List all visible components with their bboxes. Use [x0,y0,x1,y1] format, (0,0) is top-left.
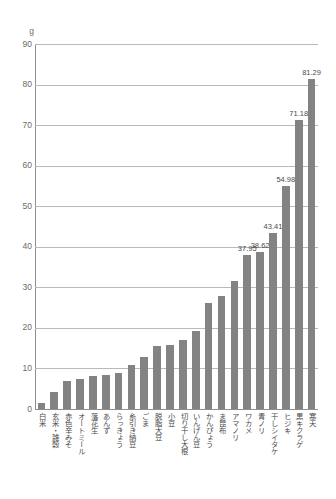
bar[interactable] [256,252,264,409]
x-tick-label: 切り干し大根 [179,412,187,454]
x-tick-label: 玄米・雑穀 [50,412,58,447]
bar[interactable] [308,79,316,409]
bar-slot: 54.98 [279,44,292,409]
y-tick-label: 40 [8,242,32,251]
y-tick-label: 80 [8,80,32,89]
bar[interactable] [128,365,136,409]
bar-slot [74,44,87,409]
bar[interactable] [115,373,123,410]
bar-slot [112,44,125,409]
bar-slot: 43.41 [267,44,280,409]
gridline-0 [35,409,318,410]
bar-value-label: 81.29 [302,69,321,77]
y-tick-label: 20 [8,323,32,332]
x-tick-label: ヒジキ [282,412,290,433]
bar-slot [48,44,61,409]
bar-slot [202,44,215,409]
bar-slot [86,44,99,409]
x-tick-label: らっきょう [115,412,123,447]
x-tick-label: ごま [140,412,148,426]
x-tick-label: 落花生 [89,412,97,433]
bar[interactable] [102,375,110,409]
bar[interactable] [269,233,277,409]
x-tick-label: 寒天 [308,412,316,426]
bar[interactable] [205,303,213,409]
y-axis-unit-label: g [12,27,34,36]
bar-slot: 37.95 [241,44,254,409]
bar-slot: 71.18 [292,44,305,409]
bar-slot [228,44,241,409]
x-tick-label: ま昆布 [218,412,226,433]
bar-slot [189,44,202,409]
bar[interactable] [218,296,226,409]
bars-layer: 37.9538.6243.4154.9871.1881.29 [35,44,318,409]
bar-slot [125,44,138,409]
bar[interactable] [89,376,97,409]
bar[interactable] [192,331,200,409]
x-tick-label: いんげん豆 [192,412,200,447]
y-tick-label: 90 [8,40,32,49]
bar[interactable] [76,379,84,409]
bar-slot: 81.29 [305,44,318,409]
x-tick-label: あんず [102,412,110,433]
x-tick-label: 青ノリ [256,412,264,433]
x-tick-label: 黒キクラゲ [295,412,303,447]
bar[interactable] [166,345,174,409]
x-tick-label: 白米 [37,412,45,426]
x-tick-label: 糸引き納豆 [127,412,135,447]
x-tick-label: 小豆 [166,412,174,426]
x-tick-label: 干しシイタケ [269,412,277,454]
bar[interactable] [282,186,290,409]
y-tick-label: 50 [8,202,32,211]
bar-slot [177,44,190,409]
bar-slot [164,44,177,409]
y-tick-label: 0 [8,405,32,414]
x-tick-label: かんぴょう [205,412,213,447]
y-tick-label: 10 [8,364,32,373]
bar[interactable] [295,120,303,409]
bar[interactable] [50,392,58,409]
x-tick-label: ワカメ [243,412,251,433]
bar-slot [138,44,151,409]
x-tick-label: 脱脂大豆 [153,412,161,440]
bar[interactable] [63,381,71,409]
x-tick-label: アマノリ [230,412,238,440]
bar[interactable] [243,255,251,409]
bar-slot [35,44,48,409]
x-axis-labels: 白米玄米・雑穀赤色辛みそオートミール落花生あんずらっきょう糸引き納豆ごま脱脂大豆… [35,412,318,497]
y-tick-label: 60 [8,161,32,170]
bar[interactable] [179,340,187,409]
x-tick-label: オートミール [76,412,84,454]
bar[interactable] [140,357,148,409]
bar-slot [215,44,228,409]
y-tick-label: 30 [8,283,32,292]
x-tick-label: 赤色辛みそ [63,412,71,447]
bar[interactable] [38,403,46,409]
bar[interactable] [231,281,239,409]
bar-slot [99,44,112,409]
bar-slot [61,44,74,409]
bar-chart: g 37.9538.6243.4154.9871.1881.29 白米玄米・雑穀… [0,0,336,499]
bar[interactable] [153,346,161,409]
y-tick-label: 70 [8,121,32,130]
bar-slot [151,44,164,409]
